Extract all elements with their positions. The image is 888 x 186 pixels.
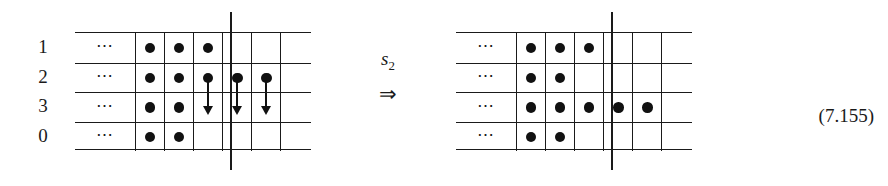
grid-cell xyxy=(662,64,691,93)
particle-dot xyxy=(584,43,595,54)
grid-cell xyxy=(194,123,223,152)
grid-cell xyxy=(662,93,691,122)
grid-cell xyxy=(575,93,604,122)
ellipsis-icon: ⋯ xyxy=(96,126,115,143)
grid-cell xyxy=(223,33,252,63)
row-label-column: 1 2 3 0 xyxy=(28,32,58,150)
ellipsis-cell: ⋯ xyxy=(456,123,517,152)
grid-row: ⋯ xyxy=(456,122,692,152)
grid-row: ⋯ xyxy=(75,122,311,152)
ellipsis-icon: ⋯ xyxy=(96,37,115,54)
particle-dot xyxy=(145,132,156,143)
grid-cell xyxy=(136,123,165,152)
grid-cell xyxy=(223,123,252,152)
particle-dot xyxy=(526,102,537,113)
grid-cell xyxy=(194,64,223,93)
ellipsis-icon: ⋯ xyxy=(96,67,115,84)
grid-cell xyxy=(546,123,575,152)
grid-cell xyxy=(546,93,575,122)
figure-canvas: 1 2 3 0 ⋯⋯⋯⋯ s2 ⇒ ⋯⋯⋯⋯ (7.155) xyxy=(0,0,888,186)
ellipsis-icon: ⋯ xyxy=(96,97,115,114)
grid-cell xyxy=(281,64,310,93)
particle-dot xyxy=(145,73,156,84)
grid-cell xyxy=(604,33,633,63)
grid-cell xyxy=(136,93,165,122)
grid-cell xyxy=(165,64,194,93)
grid-cell xyxy=(604,93,633,122)
ellipsis-cell: ⋯ xyxy=(456,33,517,63)
ellipsis-cell: ⋯ xyxy=(75,64,136,93)
operator-symbol: s2 xyxy=(352,46,424,74)
grid-cell xyxy=(165,93,194,122)
ellipsis-cell: ⋯ xyxy=(75,123,136,152)
particle-dot xyxy=(174,43,185,54)
row-label: 0 xyxy=(28,121,58,151)
grid-cell xyxy=(662,33,691,63)
grid-cell xyxy=(546,64,575,93)
grid-cell xyxy=(281,33,310,63)
grid-cell xyxy=(633,93,662,122)
row-label: 2 xyxy=(28,62,58,92)
grid-cell xyxy=(252,64,281,93)
grid-cell xyxy=(252,33,281,63)
particle-dot xyxy=(613,102,624,113)
particle-dot xyxy=(555,43,566,54)
grid-cell xyxy=(662,123,691,152)
row-label: 3 xyxy=(28,91,58,121)
grid-cell xyxy=(223,93,252,122)
particle-dot xyxy=(174,73,185,84)
grid-cell xyxy=(136,33,165,63)
particle-dot xyxy=(555,102,566,113)
grid-cell xyxy=(194,93,223,122)
particle-dot xyxy=(555,132,566,143)
particle-dot xyxy=(526,73,537,84)
grid-cell xyxy=(604,123,633,152)
grid-cell xyxy=(546,33,575,63)
particle-dot xyxy=(145,43,156,54)
particle-dot xyxy=(145,102,156,113)
before-state-grid: ⋯⋯⋯⋯ xyxy=(75,32,311,150)
ellipsis-icon: ⋯ xyxy=(477,97,496,114)
equation-number: (7.155) xyxy=(819,105,874,127)
particle-dot xyxy=(203,43,214,54)
grid-cell xyxy=(517,123,546,152)
ellipsis-icon: ⋯ xyxy=(477,67,496,84)
grid-cell xyxy=(165,33,194,63)
grid-cell xyxy=(517,33,546,63)
grid-row: ⋯ xyxy=(456,63,692,93)
transition-operator: s2 ⇒ xyxy=(352,46,424,109)
particle-dot xyxy=(526,43,537,54)
grid-cell xyxy=(575,33,604,63)
implies-icon: ⇒ xyxy=(352,80,424,108)
grid-cell xyxy=(223,64,252,93)
grid-row: ⋯ xyxy=(456,33,692,63)
particle-dot xyxy=(555,73,566,84)
grid-cell xyxy=(575,64,604,93)
grid-cell xyxy=(194,33,223,63)
grid-cell xyxy=(252,93,281,122)
grid-cell xyxy=(517,93,546,122)
ellipsis-cell: ⋯ xyxy=(456,64,517,93)
column-separator-line xyxy=(230,12,232,170)
particle-dot xyxy=(174,102,185,113)
grid-cell xyxy=(136,64,165,93)
grid-cell xyxy=(165,123,194,152)
grid-cell xyxy=(633,64,662,93)
grid-cell xyxy=(633,123,662,152)
particle-dot xyxy=(526,132,537,143)
ellipsis-icon: ⋯ xyxy=(477,37,496,54)
grid-cell xyxy=(604,64,633,93)
particle-dot xyxy=(584,102,595,113)
grid-cell xyxy=(252,123,281,152)
grid-cell xyxy=(633,33,662,63)
particle-dot xyxy=(642,102,653,113)
grid-cell xyxy=(281,93,310,122)
grid-cell xyxy=(517,64,546,93)
ellipsis-cell: ⋯ xyxy=(75,33,136,63)
particle-dot xyxy=(174,132,185,143)
ellipsis-cell: ⋯ xyxy=(75,93,136,122)
row-label: 1 xyxy=(28,32,58,62)
grid-row: ⋯ xyxy=(75,63,311,93)
ellipsis-cell: ⋯ xyxy=(456,93,517,122)
grid-row: ⋯ xyxy=(75,33,311,63)
